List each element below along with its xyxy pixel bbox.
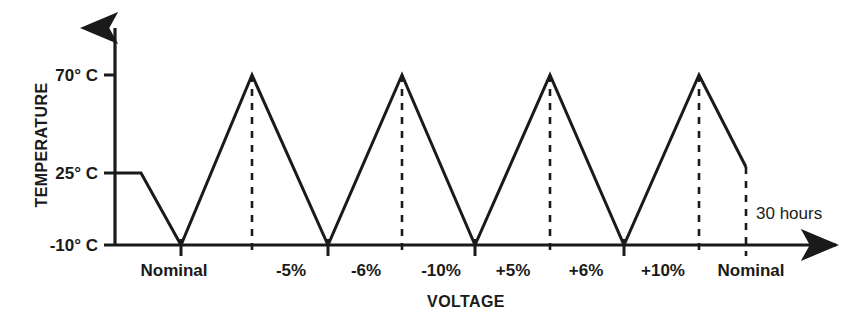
x-tick-label-plus10: +10% [641, 262, 685, 279]
temperature-profile-line [115, 75, 746, 245]
y-tick-label-25: 25° C [2, 165, 98, 182]
y-tick-marks [104, 75, 115, 245]
duration-annotation: 30 hours [756, 205, 822, 222]
x-tick-label-nominal-1: Nominal [140, 262, 207, 279]
chart-plot-area [0, 0, 860, 330]
x-tick-label-plus6: +6% [569, 262, 604, 279]
x-tick-label-minus10: -10% [421, 262, 461, 279]
x-tick-label-minus5: -5% [276, 262, 306, 279]
y-axis-title: TEMPERATURE [34, 83, 50, 208]
y-tick-label-minus10: -10° C [2, 237, 98, 254]
peak-drop-lines [252, 75, 746, 256]
x-tick-label-minus6: -6% [351, 262, 381, 279]
chart-figure: 70° C 25° C -10° C Nominal -5% -6% -10% … [0, 0, 860, 330]
x-axis-title: VOLTAGE [427, 294, 505, 310]
x-tick-label-plus5: +5% [496, 262, 531, 279]
y-tick-label-70: 70° C [2, 67, 98, 84]
x-tick-label-nominal-2: Nominal [717, 262, 784, 279]
